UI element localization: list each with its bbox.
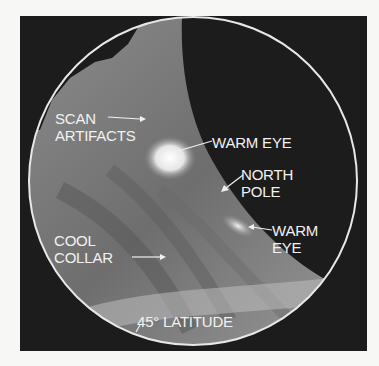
polar-infrared-image xyxy=(0,0,379,366)
label-scan-artifacts: SCAN ARTIFACTS xyxy=(55,110,135,144)
label-cool-collar: COOL COLLAR xyxy=(54,232,113,266)
warm-eye-upper xyxy=(144,136,196,180)
label-warm-eye-lower: WARM EYE xyxy=(272,222,318,256)
label-latitude: 45° LATITUDE xyxy=(137,313,233,330)
label-warm-eye-upper: WARM EYE xyxy=(212,134,292,151)
label-north-pole: NORTH POLE xyxy=(241,166,293,200)
